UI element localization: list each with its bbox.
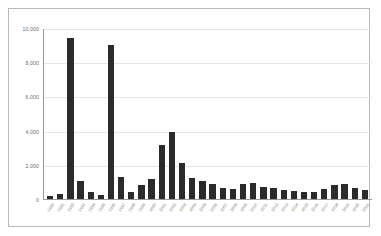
x-label-slot: 1990 (45, 200, 55, 230)
bar-slot (167, 29, 177, 199)
bar[interactable] (169, 132, 175, 199)
y-tick-label: 0 (36, 197, 39, 203)
y-tick-label: 10,000 (23, 26, 39, 32)
bar[interactable] (98, 195, 104, 199)
bar[interactable] (88, 192, 94, 199)
x-label-slot: 1994 (86, 200, 96, 230)
x-label-slot: 1992 (65, 200, 75, 230)
bar[interactable] (362, 190, 368, 199)
x-tick-label: 2013 (280, 202, 289, 213)
bar-slot (289, 29, 299, 199)
bar[interactable] (209, 184, 215, 199)
x-label-slot: 2000 (147, 200, 157, 230)
y-tick-label: 6,000 (26, 94, 39, 100)
bar-slot (360, 29, 370, 199)
x-tick-label: 2005 (198, 202, 207, 213)
x-label-slot: 2003 (177, 200, 187, 230)
bar-slot (177, 29, 187, 199)
bar[interactable] (47, 196, 53, 199)
bar[interactable] (189, 178, 195, 199)
x-label-slot: 2004 (187, 200, 197, 230)
x-tick-label: 2001 (158, 202, 167, 213)
bar-slot (268, 29, 278, 199)
x-label-slot: 2014 (289, 200, 299, 230)
x-label-slot: 2008 (228, 200, 238, 230)
x-label-slot: 2006 (208, 200, 218, 230)
bar[interactable] (220, 188, 226, 199)
bar-slot (309, 29, 319, 199)
bar[interactable] (118, 177, 124, 199)
bar-slot (329, 29, 339, 199)
x-tick-label: 2003 (178, 202, 187, 213)
x-label-slot: 2020 (350, 200, 360, 230)
bar-slot (65, 29, 75, 199)
bar[interactable] (138, 185, 144, 199)
x-tick-label: 2012 (270, 202, 279, 213)
x-tick-label: 1996 (107, 202, 116, 213)
x-tick-label: 2002 (168, 202, 177, 213)
x-tick-label: 2009 (239, 202, 248, 213)
bar[interactable] (77, 181, 83, 199)
bar[interactable] (270, 188, 276, 199)
bar[interactable] (199, 181, 205, 199)
bar-slot (218, 29, 228, 199)
bar[interactable] (341, 184, 347, 199)
bar-slot (75, 29, 85, 199)
x-tick-label: 2007 (219, 202, 228, 213)
x-label-slot: 2018 (329, 200, 339, 230)
bar[interactable] (352, 188, 358, 199)
bar-slot (106, 29, 116, 199)
plot-area: 10,000 8,000 6,000 4,000 2,000 0 (43, 29, 372, 200)
bar[interactable] (57, 194, 63, 199)
x-label-slot: 2001 (157, 200, 167, 230)
bar[interactable] (260, 187, 266, 199)
bar[interactable] (311, 192, 317, 199)
x-tick-label: 2016 (310, 202, 319, 213)
bar[interactable] (128, 192, 134, 199)
bar[interactable] (230, 189, 236, 199)
x-tick-label: 1998 (127, 202, 136, 213)
bar[interactable] (281, 190, 287, 199)
x-tick-label: 1992 (66, 202, 75, 213)
x-label-slot: 2015 (299, 200, 309, 230)
y-tick-label: 2,000 (26, 163, 39, 169)
bar[interactable] (67, 38, 73, 200)
x-label-slot: 2011 (258, 200, 268, 230)
x-label-slot: 2012 (268, 200, 278, 230)
x-label-slot: 2017 (319, 200, 329, 230)
bar[interactable] (250, 183, 256, 199)
bar[interactable] (301, 192, 307, 199)
bar-series (43, 29, 372, 199)
x-label-slot: 2013 (279, 200, 289, 230)
chart-frame: 10,000 8,000 6,000 4,000 2,000 0 1990199… (8, 8, 370, 227)
x-label-slot: 2021 (360, 200, 370, 230)
x-tick-label: 2014 (290, 202, 299, 213)
bar[interactable] (148, 179, 154, 199)
bar-slot (248, 29, 258, 199)
bar-slot (45, 29, 55, 199)
bar[interactable] (331, 185, 337, 199)
bar-slot (147, 29, 157, 199)
x-tick-label: 1993 (77, 202, 86, 213)
bar[interactable] (240, 184, 246, 199)
x-axis-labels: 1990199119921993199419951996199719981999… (43, 200, 372, 230)
x-tick-label: 2000 (148, 202, 157, 213)
bar-slot (96, 29, 106, 199)
bar-slot (279, 29, 289, 199)
bar[interactable] (291, 191, 297, 199)
bar-slot (238, 29, 248, 199)
x-tick-label: 2019 (341, 202, 350, 213)
x-label-slot: 1996 (106, 200, 116, 230)
bar-slot (299, 29, 309, 199)
bar[interactable] (321, 189, 327, 199)
y-tick-label: 4,000 (26, 129, 39, 135)
x-label-slot: 2010 (248, 200, 258, 230)
x-label-slot: 1998 (126, 200, 136, 230)
x-label-slot: 1997 (116, 200, 126, 230)
bar[interactable] (179, 163, 185, 199)
bar[interactable] (159, 145, 165, 199)
bar[interactable] (108, 45, 114, 199)
bar-slot (350, 29, 360, 199)
x-tick-label: 2006 (209, 202, 218, 213)
x-tick-label: 1997 (117, 202, 126, 213)
